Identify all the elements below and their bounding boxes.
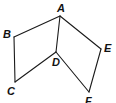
vertex-label-a: A [56,2,65,14]
vertex-label-b: B [3,28,11,40]
geometry-diagram: A B C D E F [0,0,116,103]
edge-d-a [56,16,60,52]
vertex-label-e: E [104,42,112,54]
edge-f-d [56,52,89,92]
edge-b-c [14,37,15,82]
edges [14,16,101,92]
edge-a-b [14,16,60,37]
edge-c-d [15,52,56,82]
vertex-label-f: F [85,95,92,103]
vertex-label-d: D [52,56,60,68]
edge-e-f [89,49,101,92]
edge-a-e [60,16,101,49]
vertex-label-c: C [7,85,16,97]
